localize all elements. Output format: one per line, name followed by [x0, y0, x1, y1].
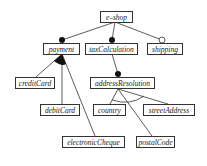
- feature-debitcard: debitCard: [40, 104, 80, 116]
- feature-eshop: e–shop: [100, 11, 133, 23]
- feature-streetaddress: streetAddress: [143, 104, 195, 116]
- edge-eshop-payment: [62, 22, 115, 40]
- edge-eshop-shipping: [115, 22, 162, 40]
- feature-payment: payment: [43, 43, 80, 55]
- feature-electroniccheque: electronicCheque: [62, 136, 125, 148]
- feature-postalcode: postalCode: [136, 136, 175, 148]
- edge-payment-electroniccheque: [62, 54, 95, 136]
- feature-addressresolution: addressResolution: [90, 77, 155, 89]
- edge-taxcalculation-addressresolution: [112, 54, 118, 74]
- edge-addressresolution-country: [110, 89, 118, 104]
- feature-taxcalculation: taxCalculation: [85, 43, 138, 55]
- alternative-group-arc: [112, 96, 144, 102]
- feature-creditcard: creditCard: [15, 77, 55, 89]
- feature-country: country: [93, 104, 126, 116]
- feature-shipping: shipping: [147, 43, 183, 55]
